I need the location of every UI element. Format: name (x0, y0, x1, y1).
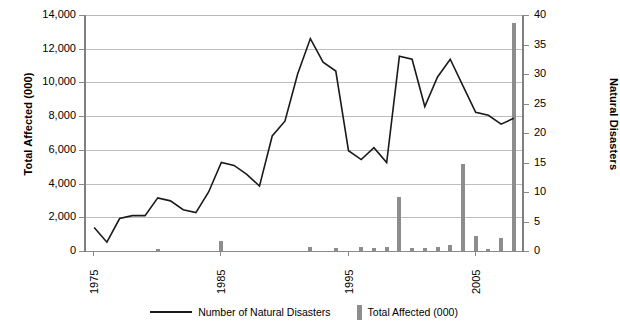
y-axis-right-tick-0: 0 (534, 244, 540, 256)
legend-label-natural-disasters: Number of Natural Disasters (198, 306, 330, 318)
y-axis-left-tick-4000: 4,000 (10, 177, 76, 189)
legend-item-natural-disasters: Number of Natural Disasters (150, 306, 330, 318)
x-axis-tick-1985: 1985 (214, 252, 228, 298)
line-swatch-icon (150, 311, 192, 313)
chart-legend: Number of Natural Disasters Total Affect… (84, 300, 524, 324)
x-axis-tick-2005: 2005 (469, 252, 483, 298)
x-axis-tick-1995: 1995 (342, 252, 356, 298)
tickmark-right (524, 74, 529, 75)
tickmark-right (524, 163, 529, 164)
tickmark-right (524, 222, 529, 223)
y-axis-right-ticklabels: 0510152025303540 (534, 0, 574, 332)
y-axis-left-tick-8000: 8,000 (10, 109, 76, 121)
tickmark-right (524, 15, 529, 16)
line-series-natural-disasters (84, 15, 524, 252)
bar-swatch-icon (357, 305, 362, 320)
y-axis-left-ticklabels: 02,0004,0006,0008,00010,00012,00014,000 (10, 0, 76, 332)
legend-label-total-affected: Total Affected (000) (368, 306, 458, 318)
y-axis-right-tick-35: 35 (534, 38, 546, 50)
y-axis-left-tick-6000: 6,000 (10, 143, 76, 155)
tickmark-right (524, 192, 529, 193)
y-axis-left-tick-0: 0 (10, 244, 76, 256)
y-axis-right-tick-5: 5 (534, 215, 540, 227)
tickmark-right (524, 251, 529, 252)
y-axis-left-tick-12000: 12,000 (10, 42, 76, 54)
tickmark-right (524, 104, 529, 105)
x-axis-ticklabel: 2005 (470, 254, 482, 294)
y-axis-left-tick-14000: 14,000 (10, 8, 76, 20)
x-axis-ticklabel: 1975 (88, 254, 100, 294)
y-axis-left-tick-10000: 10,000 (10, 75, 76, 87)
plot-area (84, 15, 524, 252)
x-axis-ticklabels: 1975198519952005 (84, 252, 524, 298)
y-axis-right-tick-25: 25 (534, 97, 546, 109)
y-axis-right-tick-15: 15 (534, 156, 546, 168)
y-axis-right-tick-30: 30 (534, 67, 546, 79)
legend-item-total-affected: Total Affected (000) (357, 305, 458, 320)
x-axis-ticklabel: 1985 (215, 254, 227, 294)
tickmark-right (524, 133, 529, 134)
y-axis-right-tick-20: 20 (534, 126, 546, 138)
y-axis-right-tick-40: 40 (534, 8, 546, 20)
tickmark-right (524, 45, 529, 46)
x-axis-ticklabel: 1995 (343, 254, 355, 294)
x-axis-tick-1975: 1975 (87, 252, 101, 298)
y-axis-left-tick-2000: 2,000 (10, 210, 76, 222)
y-axis-title-right: Natural Disasters (608, 34, 620, 214)
y-axis-right-tick-10: 10 (534, 185, 546, 197)
